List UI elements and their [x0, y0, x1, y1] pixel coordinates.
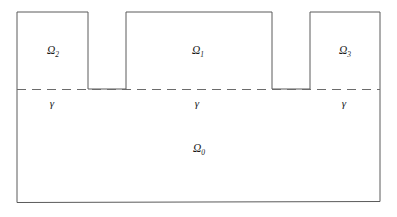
domain-diagram-figure: Ω2 Ω1 Ω3 Ω0 γ γ γ [0, 0, 397, 217]
gamma-label-left: γ [50, 97, 55, 109]
region-label-omega0: Ω0 [193, 142, 205, 157]
region-subscript-omega2: 2 [55, 50, 59, 59]
region-subscript-omega0: 0 [201, 148, 205, 157]
region-label-omega2: Ω2 [47, 44, 59, 59]
region-subscript-omega1: 1 [200, 50, 204, 59]
gamma-label-right: γ [342, 97, 347, 109]
region-subscript-omega3: 3 [346, 50, 351, 59]
region-label-omega1: Ω1 [192, 44, 204, 59]
region-label-omega3: Ω3 [339, 44, 351, 59]
domain-diagram-canvas: Ω2 Ω1 Ω3 Ω0 γ γ γ [0, 0, 397, 217]
gamma-label-center: γ [195, 97, 200, 109]
